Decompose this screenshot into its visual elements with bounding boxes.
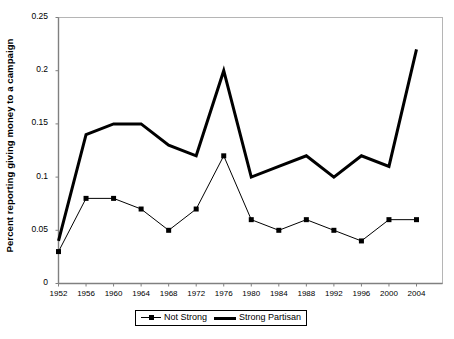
x-tick-label: 1972 bbox=[182, 289, 210, 298]
x-tick-label: 2000 bbox=[375, 289, 403, 298]
legend-marker-line-icon bbox=[141, 313, 161, 322]
x-tick-label: 1988 bbox=[292, 289, 320, 298]
chart-legend: Not Strong Strong Partisan bbox=[135, 310, 307, 326]
x-axis-tick-labels: 1952195619601964196819721976198019841988… bbox=[0, 0, 454, 339]
legend-label: Strong Partisan bbox=[239, 312, 301, 323]
x-tick-label: 1980 bbox=[237, 289, 265, 298]
x-tick-label: 2004 bbox=[403, 289, 431, 298]
x-tick-label: 1996 bbox=[347, 289, 375, 298]
x-tick-label: 1956 bbox=[72, 289, 100, 298]
x-tick-label: 1992 bbox=[320, 289, 348, 298]
x-tick-label: 1976 bbox=[210, 289, 238, 298]
x-tick-label: 1952 bbox=[45, 289, 73, 298]
x-tick-label: 1968 bbox=[155, 289, 183, 298]
legend-thick-line-icon bbox=[214, 313, 236, 322]
legend-item-not-strong[interactable]: Not Strong bbox=[141, 312, 207, 323]
chart-container: Percent reporting giving money to a camp… bbox=[0, 0, 454, 339]
x-tick-label: 1984 bbox=[265, 289, 293, 298]
x-tick-label: 1960 bbox=[100, 289, 128, 298]
x-tick-label: 1964 bbox=[127, 289, 155, 298]
legend-label: Not Strong bbox=[164, 312, 207, 323]
legend-item-strong-partisan[interactable]: Strong Partisan bbox=[214, 312, 301, 323]
